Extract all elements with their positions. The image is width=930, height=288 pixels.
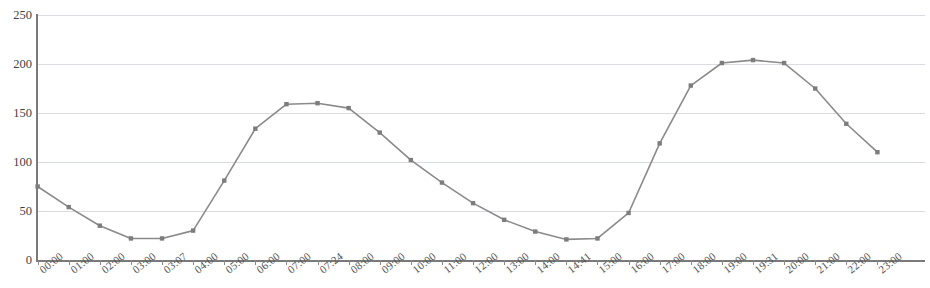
data-point-06:00 [253, 126, 257, 130]
data-point-15:00 [595, 236, 599, 240]
line-chart: 050100150200250 00:0001:0002:0003:0003:0… [0, 0, 930, 288]
data-point-16:00 [626, 211, 630, 215]
data-point-19:31 [751, 58, 755, 62]
data-point-03:07 [160, 236, 164, 240]
data-point-02:00 [98, 224, 102, 228]
data-point-07:24 [315, 101, 319, 105]
series-layer [0, 0, 930, 288]
data-point-12:00 [471, 201, 475, 205]
data-point-13:00 [502, 218, 506, 222]
data-point-23:00 [875, 150, 879, 154]
data-point-21:00 [813, 86, 817, 90]
data-point-09:00 [378, 130, 382, 134]
data-point-14:41 [564, 237, 568, 241]
data-point-22:00 [844, 122, 848, 126]
series-line [38, 60, 878, 239]
data-point-00:00 [35, 184, 39, 188]
data-point-19:00 [720, 61, 724, 65]
data-point-07:00 [284, 102, 288, 106]
data-point-18:00 [689, 83, 693, 87]
data-point-14:00 [533, 229, 537, 233]
series-markers [35, 58, 879, 242]
data-point-03:00 [129, 236, 133, 240]
data-point-05:00 [222, 178, 226, 182]
data-point-04:00 [191, 228, 195, 232]
data-point-10:00 [409, 158, 413, 162]
data-point-20:00 [782, 61, 786, 65]
data-point-01:00 [67, 205, 71, 209]
data-point-17:00 [657, 141, 661, 145]
data-point-11:00 [440, 180, 444, 184]
data-point-08:00 [346, 106, 350, 110]
